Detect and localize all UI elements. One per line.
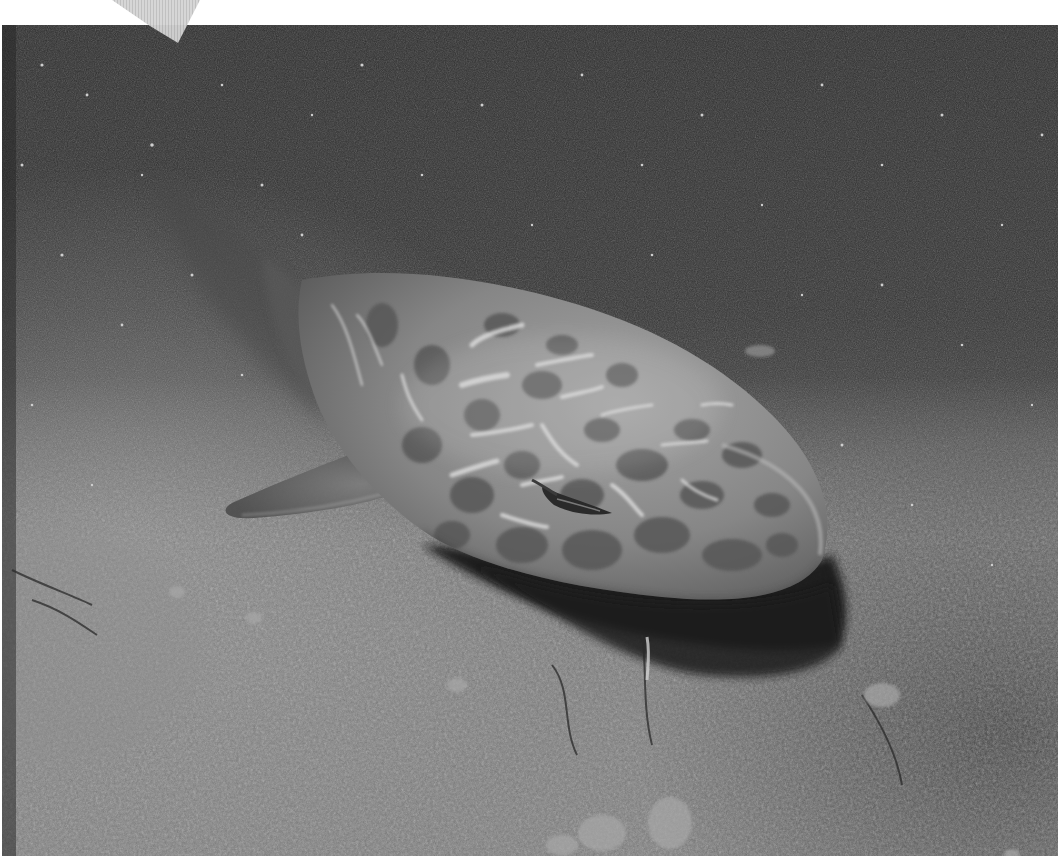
shark-photo: [2, 25, 1058, 856]
corner-triangle-mark: [0, 0, 260, 60]
page: Grayscale underwater photograph of a spo…: [0, 0, 1062, 868]
photo-canvas: [2, 25, 1058, 856]
floating-particle: [745, 345, 775, 357]
